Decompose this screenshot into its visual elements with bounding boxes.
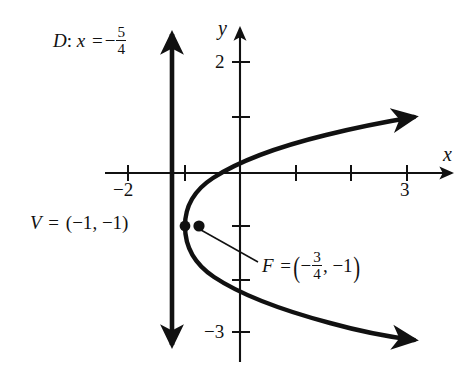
- focus-label-comma: ,: [323, 255, 328, 276]
- y-axis: [232, 28, 250, 362]
- focus-label-equals: =: [278, 255, 293, 276]
- x-tick-label--2: −2: [113, 180, 133, 199]
- directrix-label-colon: :: [67, 30, 72, 51]
- y-tick-label-2: 2: [215, 52, 225, 71]
- directrix-label-variable: x: [77, 30, 85, 51]
- fraction-denominator: 4: [116, 41, 126, 57]
- focus-label-fraction: 34: [312, 249, 322, 281]
- focus-leader-line: [201, 230, 258, 262]
- directrix-label-prefix: D: [53, 30, 67, 51]
- focus-label-name: F: [262, 255, 274, 276]
- x-tick-label-3: 3: [400, 180, 410, 199]
- directrix-label-equals: =: [90, 30, 105, 51]
- vertex-label-x-value: −1: [72, 212, 92, 233]
- parabola-figure: D: x =−54 y x 2 −3 −2 3 V = (−1, −1) F =…: [0, 0, 474, 371]
- y-tick-label--3: −3: [204, 322, 224, 341]
- vertex-label-name: V: [30, 212, 42, 233]
- focus-label: F =(−34, −1): [262, 249, 360, 282]
- focus-label-x-minus: −: [301, 255, 312, 276]
- directrix-label-fraction: 54: [116, 24, 126, 56]
- y-axis-label: y: [218, 18, 227, 38]
- x-axis-label: x: [443, 144, 452, 164]
- directrix-label-minus: −: [105, 30, 116, 51]
- vertex-label-y-value: −1: [102, 212, 122, 233]
- vertex-label-equals: =: [46, 212, 61, 233]
- focus-label-close-paren: ): [353, 254, 360, 283]
- focus-fraction-denominator: 4: [312, 266, 322, 282]
- vertex-label-close-paren: ): [122, 212, 128, 233]
- parabola-curve: [185, 117, 414, 340]
- focus-label-y-value: −1: [332, 255, 352, 276]
- vertex-label-comma: ,: [92, 212, 97, 233]
- focus-label-open-paren: (: [293, 254, 300, 283]
- vertex-label: V = (−1, −1): [30, 213, 128, 232]
- focus-point-marker: [193, 220, 204, 231]
- focus-fraction-numerator: 3: [312, 249, 322, 266]
- parabola-upper-branch: [185, 117, 414, 226]
- vertex-point-marker: [180, 221, 191, 232]
- fraction-numerator: 5: [116, 24, 126, 41]
- directrix-label: D: x =−54: [53, 24, 127, 56]
